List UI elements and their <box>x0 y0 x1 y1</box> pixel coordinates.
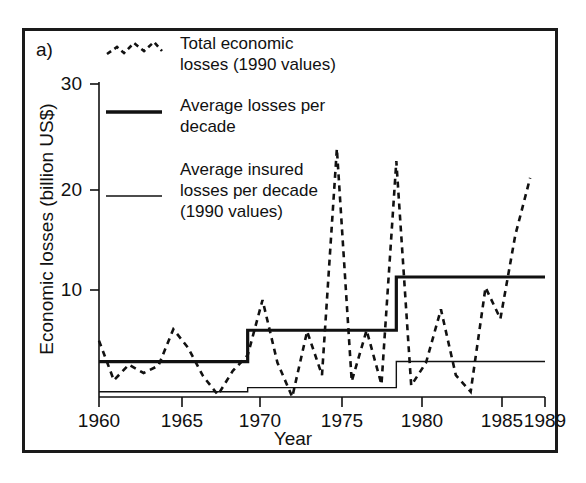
x-tick-label-1960: 1960 <box>59 410 139 432</box>
x-tick-label-1989: 1989 <box>505 410 585 432</box>
thick-solid-line-icon <box>104 100 166 124</box>
legend-entry-average-insured-losses: Average insured losses per decade (1990 … <box>104 162 354 204</box>
y-axis-title: Economic losses (billion US$) <box>36 64 58 394</box>
dashed-line-icon <box>104 38 166 62</box>
x-tick-label-1965: 1965 <box>142 410 222 432</box>
legend-label-average-insured-losses: Average insured losses per decade (1990 … <box>180 159 318 222</box>
legend-entry-average-losses: Average losses per decade <box>104 98 354 140</box>
x-tick-label-1975: 1975 <box>302 410 382 432</box>
thin-solid-line-icon <box>104 184 166 208</box>
y-tick-label-30: 30 <box>38 73 82 95</box>
x-tick-label-1980: 1980 <box>382 410 462 432</box>
y-tick-label-10: 10 <box>38 279 82 301</box>
chart-legend: Total economic losses (1990 values) Aver… <box>104 36 354 218</box>
y-tick-label-20: 20 <box>38 179 82 201</box>
legend-label-average-losses: Average losses per decade <box>180 95 325 137</box>
legend-entry-total-economic-losses: Total economic losses (1990 values) <box>104 36 354 78</box>
legend-label-total-economic-losses: Total economic losses (1990 values) <box>180 33 336 75</box>
x-tick-label-1970: 1970 <box>220 410 300 432</box>
panel-label: a) <box>36 40 53 59</box>
